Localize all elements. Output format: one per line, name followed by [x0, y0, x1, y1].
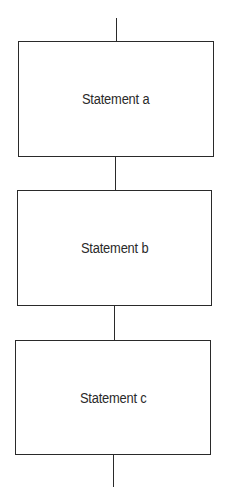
- connector-entry: [116, 18, 117, 42]
- statement-box-b: Statement b: [17, 190, 212, 306]
- connector-exit: [113, 454, 114, 487]
- statement-label-c: Statement c: [80, 390, 147, 406]
- statement-box-a: Statement a: [18, 41, 214, 157]
- connector-a-b: [115, 156, 116, 191]
- statement-label-b: Statement b: [81, 240, 148, 256]
- statement-box-c: Statement c: [15, 340, 211, 455]
- connector-b-c: [114, 305, 115, 341]
- statement-label-a: Statement a: [82, 91, 149, 107]
